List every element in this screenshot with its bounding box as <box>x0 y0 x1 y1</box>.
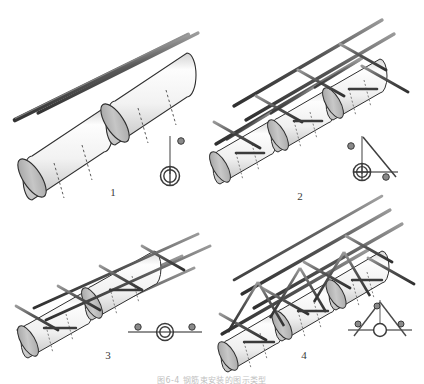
panel-1-number: 1 <box>103 186 123 198</box>
legend-dot <box>383 174 390 181</box>
panel-3-legend <box>126 312 206 344</box>
panel-1-legend-drawing <box>150 132 206 190</box>
panel-2-legend-drawing <box>342 132 406 190</box>
legend-dot <box>189 324 195 330</box>
figure-caption: 图6-4 钢筋束安装的图示类型 <box>0 374 424 384</box>
cylinder-lower <box>12 108 113 201</box>
panel-2-legend <box>342 132 406 190</box>
panel-3-legend-drawing <box>126 312 206 344</box>
panel-4-legend-drawing <box>344 298 416 344</box>
panel-3-number: 3 <box>98 349 118 361</box>
legend-dot-left <box>355 321 361 327</box>
panel-1-legend <box>150 132 206 190</box>
legend-dot-right <box>398 321 404 327</box>
panel-2-number: 2 <box>290 190 310 202</box>
panel-4-legend <box>344 298 416 344</box>
legend-ring <box>374 324 387 337</box>
legend-dot-top <box>374 303 380 309</box>
legend-dot <box>348 143 355 150</box>
panel-4-number: 4 <box>294 349 314 361</box>
legend-dot <box>178 138 185 145</box>
legend-dot <box>135 324 141 330</box>
